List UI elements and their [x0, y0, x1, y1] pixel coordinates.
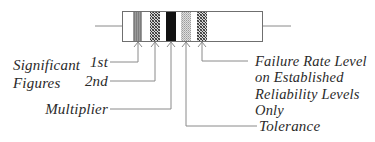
band-4 — [181, 12, 191, 41]
leader-multiplier — [110, 42, 171, 109]
label-failure-rate: Failure Rate Level on Established Reliab… — [255, 53, 367, 118]
band-2 — [150, 12, 160, 41]
band-5 — [197, 12, 207, 41]
resistor-body — [123, 12, 263, 42]
label-tolerance: Tolerance — [259, 118, 320, 134]
label-multiplier: Multiplier — [40, 101, 108, 117]
leader-1st — [110, 42, 138, 62]
label-significant-figures: Significant Figures — [13, 56, 80, 92]
resistor-diagram: Significant Figures 1st 2nd Multiplier T… — [0, 0, 375, 142]
band-1 — [133, 12, 142, 41]
band-3 — [166, 12, 176, 41]
label-first: 1st — [84, 54, 108, 70]
leader-tolerance — [186, 42, 257, 126]
leader-failure-rate — [202, 42, 248, 61]
label-second: 2nd — [80, 73, 108, 89]
